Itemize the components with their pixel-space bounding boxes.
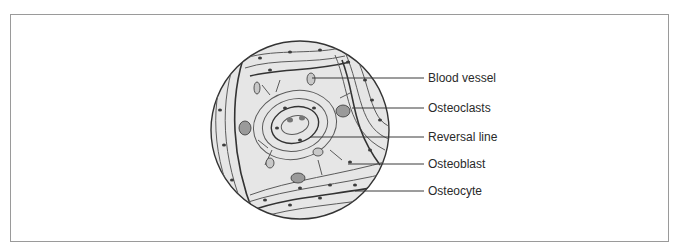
label-osteoclasts: Osteoclasts: [428, 101, 491, 115]
label-blood-vessel: Blood vessel: [428, 71, 496, 85]
bone-section-circle: [208, 41, 396, 219]
label-osteocyte: Osteocyte: [428, 184, 482, 198]
label-osteoblast: Osteoblast: [428, 157, 485, 171]
bone-cross-section-illustration: [0, 0, 677, 250]
label-reversal-line: Reversal line: [428, 130, 497, 144]
